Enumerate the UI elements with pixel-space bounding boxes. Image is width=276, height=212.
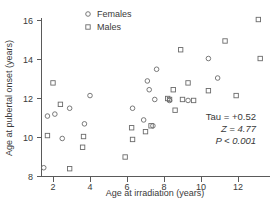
data-point-female <box>88 93 93 98</box>
data-point-male <box>171 88 175 92</box>
data-point-female <box>215 76 220 81</box>
data-point-female <box>45 114 50 119</box>
data-point-female <box>147 87 152 92</box>
plot-canvas: 810121416 24681012 Age at irradiation (y… <box>0 0 276 212</box>
legend: FemalesMales <box>86 9 132 32</box>
data-point-female <box>41 165 46 170</box>
data-point-female <box>141 118 146 123</box>
y-axis-title: Age at pubertal onset (years) <box>4 40 14 156</box>
data-point-male <box>258 56 262 60</box>
data-point-male <box>129 126 133 130</box>
legend-label-males: Males <box>97 22 122 32</box>
data-point-female <box>82 122 87 127</box>
data-point-male <box>178 48 182 52</box>
data-point-male <box>256 17 260 21</box>
x-tick-label: 4 <box>87 182 92 192</box>
stat-p: P < 0.001 <box>215 135 256 146</box>
data-point-male <box>130 137 134 141</box>
data-point-male <box>51 81 55 85</box>
series-males-points <box>45 17 262 171</box>
data-point-female <box>186 98 191 103</box>
data-point-female <box>152 97 157 102</box>
data-point-male <box>234 93 238 97</box>
stat-z: Z = 4.77 <box>220 123 257 134</box>
x-tick-label: 12 <box>233 182 243 192</box>
y-tick-label: 8 <box>28 172 33 182</box>
data-point-male <box>173 108 177 112</box>
data-point-male <box>67 167 71 171</box>
data-point-male <box>81 134 85 138</box>
data-point-male <box>80 145 84 149</box>
data-point-female <box>206 56 211 61</box>
y-axis-ticks: 810121416 <box>23 16 42 182</box>
data-point-female <box>130 106 135 111</box>
data-point-male <box>58 102 62 106</box>
y-tick-label: 12 <box>23 94 33 104</box>
legend-marker-females <box>86 12 91 17</box>
statistics-annotation: Tau = +0.52Z = 4.77P < 0.001 <box>206 111 257 146</box>
data-point-male <box>191 98 195 102</box>
data-point-male <box>186 81 190 85</box>
scatter-plot-figure: 810121416 24681012 Age at irradiation (y… <box>0 0 276 212</box>
data-point-male <box>223 39 227 43</box>
data-point-male <box>180 97 184 101</box>
data-point-male <box>45 133 49 137</box>
data-point-female <box>145 79 150 84</box>
data-point-female <box>60 136 65 141</box>
data-point-male <box>143 129 147 133</box>
y-tick-label: 10 <box>23 133 33 143</box>
data-point-male <box>206 89 210 93</box>
stat-tau: Tau = +0.52 <box>206 111 256 122</box>
y-tick-label: 14 <box>23 55 33 65</box>
data-point-female <box>67 106 72 111</box>
series-females-points <box>41 56 220 170</box>
legend-label-females: Females <box>97 9 132 19</box>
legend-marker-males <box>86 25 90 29</box>
x-tick-label: 2 <box>50 182 55 192</box>
data-point-female <box>154 67 159 72</box>
y-tick-label: 16 <box>23 16 33 26</box>
data-point-male <box>123 155 127 159</box>
data-point-female <box>53 112 58 117</box>
x-axis-title: Age at irradiation (years) <box>106 188 205 198</box>
